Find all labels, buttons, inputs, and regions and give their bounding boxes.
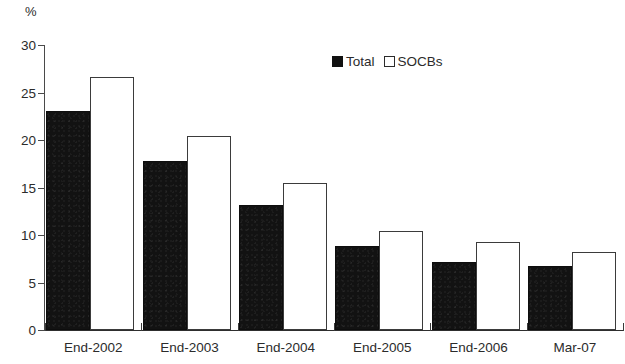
y-axis-tick-label: 30	[4, 38, 36, 53]
x-axis-label-end-2002: End-2002	[64, 340, 123, 355]
chart-legend: Total SOCBs	[332, 55, 443, 69]
legend-swatch-total	[332, 56, 343, 67]
x-axis-tick	[623, 323, 624, 331]
bar-socbs-end-2003	[187, 136, 231, 330]
y-axis-tick-label: 25	[4, 85, 36, 100]
y-axis-tick	[38, 283, 45, 284]
x-axis-label-end-2006: End-2006	[449, 340, 508, 355]
x-axis-label-mar-07: Mar-07	[553, 340, 596, 355]
y-axis-tick	[38, 235, 45, 236]
y-axis-tick-label: 20	[4, 133, 36, 148]
bar-socbs-mar-07	[572, 252, 616, 330]
bar-chart: % 051015202530 End-2002End-2003End-2004E…	[0, 0, 625, 364]
y-axis-tick	[38, 45, 45, 46]
y-axis-tick-label: 0	[4, 323, 36, 338]
legend-label-socbs: SOCBs	[398, 55, 443, 69]
y-axis-tick	[38, 93, 45, 94]
y-axis-tick-label: 5	[4, 275, 36, 290]
legend-entry-total: Total	[332, 55, 375, 69]
bar-total-mar-07	[528, 266, 572, 330]
y-axis-tick-label: 15	[4, 180, 36, 195]
legend-entry-socbs: SOCBs	[384, 55, 443, 69]
plot-bars	[45, 45, 623, 330]
bar-socbs-end-2004	[283, 183, 327, 330]
x-axis-label-end-2004: End-2004	[257, 340, 316, 355]
bar-total-end-2004	[239, 205, 283, 330]
bar-total-end-2003	[143, 161, 187, 330]
bar-socbs-end-2005	[379, 231, 423, 330]
bar-socbs-end-2006	[476, 242, 520, 330]
y-axis-tick-label: 10	[4, 228, 36, 243]
bar-socbs-end-2002	[90, 77, 134, 330]
y-axis-unit-label: %	[25, 4, 37, 19]
bar-total-end-2005	[335, 246, 379, 330]
y-axis-tick	[38, 188, 45, 189]
x-axis-label-end-2003: End-2003	[160, 340, 219, 355]
y-axis-tick	[38, 330, 45, 331]
legend-label-total: Total	[346, 55, 375, 69]
bar-total-end-2006	[432, 262, 476, 330]
x-axis-label-end-2005: End-2005	[353, 340, 412, 355]
bar-total-end-2002	[46, 111, 90, 330]
y-axis-tick	[38, 140, 45, 141]
legend-swatch-socbs	[384, 56, 395, 67]
